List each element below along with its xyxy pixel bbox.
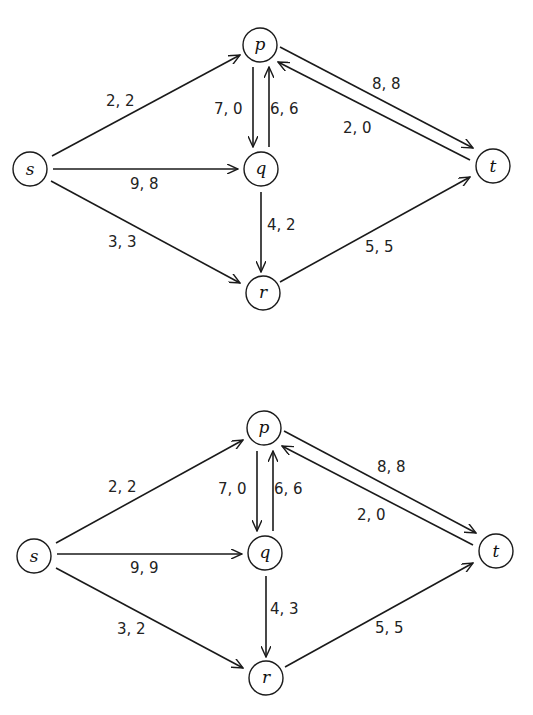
node-label-s: s [26, 159, 35, 179]
edge-label-p-t: 8, 8 [372, 75, 401, 93]
edge-label-r-t: 5, 5 [365, 238, 394, 256]
node-label-r: r [262, 667, 271, 687]
edge-label-s-r: 3, 3 [108, 233, 137, 251]
flow-network-figure: 2, 2 9, 8 3, 3 7, 0 6, 6 8, 8 2, 0 4, 2 … [0, 0, 533, 715]
node-r-bottom: r [249, 661, 283, 695]
edge-s-p [56, 440, 243, 543]
node-s-top: s [13, 152, 47, 186]
edge-r-t [280, 177, 470, 282]
node-label-p: p [255, 34, 266, 54]
edge-p-t [280, 47, 473, 148]
edge-label-t-p: 2, 0 [357, 506, 386, 524]
edge-label-s-r: 3, 2 [117, 620, 146, 638]
node-label-q: q [260, 542, 271, 562]
node-label-t: t [490, 156, 497, 176]
node-label-r: r [259, 282, 268, 302]
edge-label-q-r: 4, 3 [270, 600, 299, 618]
edge-label-s-p: 2, 2 [108, 478, 137, 496]
node-r-top: r [246, 276, 280, 310]
node-label-t: t [493, 541, 500, 561]
node-p-bottom: p [247, 411, 281, 445]
edge-label-s-q: 9, 8 [130, 175, 159, 193]
node-label-p: p [259, 417, 270, 437]
node-q-top: q [244, 152, 278, 186]
network-top: 2, 2 9, 8 3, 3 7, 0 6, 6 8, 8 2, 0 4, 2 … [13, 28, 510, 310]
edge-s-r [51, 181, 240, 283]
edge-label-s-p: 2, 2 [106, 92, 135, 110]
node-label-s: s [30, 546, 39, 566]
edge-s-p [52, 55, 240, 156]
node-q-bottom: q [248, 536, 282, 570]
node-s-bottom: s [17, 539, 51, 573]
node-p-top: p [243, 28, 277, 62]
node-t-bottom: t [479, 534, 513, 568]
edge-label-t-p: 2, 0 [343, 119, 372, 137]
edge-label-s-q: 9, 9 [130, 559, 159, 577]
edge-label-p-q: 7, 0 [214, 100, 243, 118]
edge-label-q-p: 6, 6 [274, 480, 303, 498]
edge-label-p-t: 8, 8 [377, 458, 406, 476]
node-t-top: t [476, 149, 510, 183]
edge-s-r [56, 568, 243, 668]
edge-label-r-t: 5, 5 [375, 619, 404, 637]
network-bottom: 2, 2 9, 9 3, 2 7, 0 6, 6 8, 8 2, 0 4, 3 … [17, 411, 513, 695]
edge-label-q-r: 4, 2 [267, 216, 296, 234]
edge-label-p-q: 7, 0 [218, 480, 247, 498]
edge-label-q-p: 6, 6 [270, 100, 299, 118]
edge-r-t [285, 563, 473, 667]
node-label-q: q [256, 158, 267, 178]
